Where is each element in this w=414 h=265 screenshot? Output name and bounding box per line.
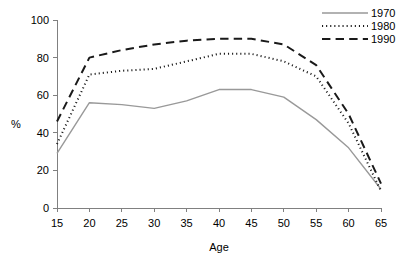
x-tick-labels: 15 20 25 30 35 40 45 50 55 60 65: [51, 217, 387, 229]
legend-label-1970: 1970: [371, 7, 395, 19]
y-tick-labels: 100 80 60 40 20 0: [31, 14, 49, 214]
series-line-1970: [57, 90, 381, 190]
x-tick-label: 15: [51, 217, 63, 229]
x-tick-label: 45: [245, 217, 257, 229]
x-tick-label: 65: [375, 217, 387, 229]
y-tick-label: 0: [43, 202, 49, 214]
series-line-1980: [57, 54, 381, 191]
chart-legend: 197019801990: [322, 7, 395, 45]
legend-label-1980: 1980: [371, 20, 395, 32]
y-tick-marks: [53, 20, 57, 208]
y-tick-label: 100: [31, 14, 49, 26]
legend-label-1990: 1990: [371, 33, 395, 45]
y-tick-label: 40: [37, 127, 49, 139]
x-tick-label: 30: [148, 217, 160, 229]
x-tick-label: 35: [180, 217, 192, 229]
axes-group: [57, 20, 381, 208]
series-layer: [57, 39, 381, 191]
x-tick-label: 25: [116, 217, 128, 229]
y-tick-label: 60: [37, 89, 49, 101]
x-tick-label: 20: [83, 217, 95, 229]
line-chart: 100 80 60 40 20 0 15 20 25 30 3: [0, 0, 414, 265]
legend-entry-1990[interactable]: 1990: [322, 33, 395, 45]
chart-container: 100 80 60 40 20 0 15 20 25 30 3: [0, 0, 414, 265]
x-tick-marks: [57, 208, 381, 212]
series-line-1990: [57, 39, 381, 184]
x-axis-title: Age: [209, 241, 229, 253]
y-tick-label: 20: [37, 164, 49, 176]
x-tick-label: 55: [310, 217, 322, 229]
legend-entry-1980[interactable]: 1980: [322, 20, 395, 32]
x-tick-label: 40: [213, 217, 225, 229]
y-tick-label: 80: [37, 52, 49, 64]
legend-entry-1970[interactable]: 1970: [322, 7, 395, 19]
x-tick-label: 50: [278, 217, 290, 229]
y-axis-title: %: [11, 118, 21, 130]
x-tick-label: 60: [342, 217, 354, 229]
